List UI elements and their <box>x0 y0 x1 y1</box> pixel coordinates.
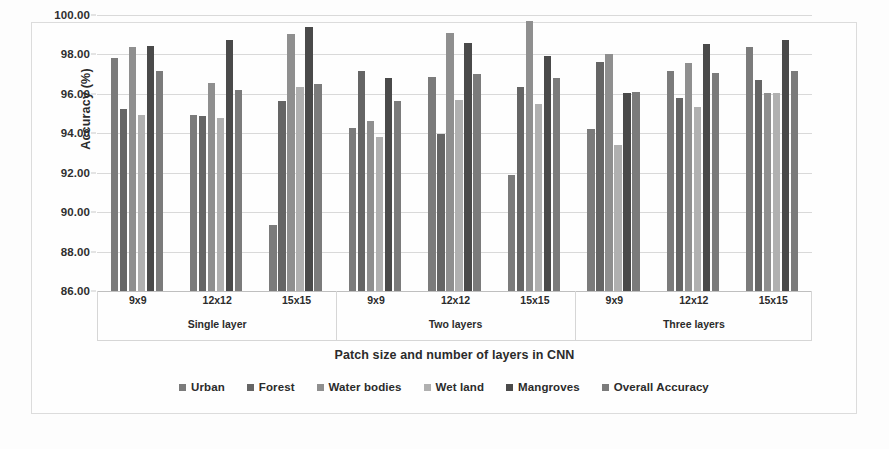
bar-overall-accuracy-three-layers-9x9 <box>632 92 639 291</box>
y-tick-mark <box>91 291 96 292</box>
legend-label: Wet land <box>436 381 485 393</box>
bar-urban-two-layers-15x15 <box>508 175 515 291</box>
y-tick-mark <box>91 133 96 134</box>
bar-mangroves-two-layers-12x12 <box>464 43 471 291</box>
bar-forest-single-layer-15x15 <box>278 101 285 291</box>
y-tick-mark <box>91 54 96 55</box>
y-tick-mark <box>91 15 96 16</box>
legend-label: Overall Accuracy <box>614 381 709 393</box>
y-tick-label: 100.00 <box>54 9 90 21</box>
legend-item[interactable]: Urban <box>179 381 225 393</box>
bar-mangroves-three-layers-15x15 <box>782 40 789 291</box>
bar-wet-land-three-layers-12x12 <box>694 107 701 291</box>
bar-urban-single-layer-9x9 <box>111 58 118 291</box>
bar-water-bodies-two-layers-9x9 <box>367 121 374 291</box>
bar-urban-two-layers-9x9 <box>349 128 356 291</box>
bar-forest-single-layer-9x9 <box>120 109 127 291</box>
legend-label: Forest <box>259 381 295 393</box>
bar-wet-land-two-layers-15x15 <box>535 104 542 291</box>
bar-water-bodies-single-layer-9x9 <box>129 47 136 291</box>
patch-size-label: 15x15 <box>734 294 813 306</box>
y-tick-label: 96.00 <box>61 88 90 100</box>
y-tick-label: 92.00 <box>61 167 90 179</box>
legend-swatch-icon <box>424 384 431 391</box>
bar-wet-land-three-layers-15x15 <box>773 93 780 291</box>
bar-overall-accuracy-single-layer-12x12 <box>235 90 242 291</box>
bar-mangroves-three-layers-9x9 <box>623 93 630 291</box>
bar-mangroves-three-layers-12x12 <box>703 44 710 291</box>
bar-overall-accuracy-single-layer-9x9 <box>156 71 163 291</box>
bar-forest-three-layers-9x9 <box>596 62 603 291</box>
bar-urban-three-layers-15x15 <box>746 47 753 291</box>
legend-swatch-icon <box>506 384 513 391</box>
legend-item[interactable]: Mangroves <box>506 381 580 393</box>
bar-water-bodies-three-layers-15x15 <box>764 93 771 291</box>
bar-wet-land-single-layer-15x15 <box>296 87 303 291</box>
layer-group-label: Single layer <box>98 318 336 330</box>
bar-forest-two-layers-15x15 <box>517 87 524 291</box>
legend-item[interactable]: Wet land <box>424 381 485 393</box>
bar-water-bodies-two-layers-15x15 <box>526 21 533 291</box>
y-tick-label: 90.00 <box>61 206 90 218</box>
y-tick-mark <box>91 93 96 94</box>
plot-area: 100.0098.0096.0094.0092.0090.0088.0086.0… <box>97 15 812 291</box>
legend-label: Urban <box>191 381 225 393</box>
bar-water-bodies-single-layer-12x12 <box>208 83 215 291</box>
layer-group-label: Two layers <box>336 318 574 330</box>
legend-label: Water bodies <box>329 381 402 393</box>
category-axis: 9x912x1215x159x912x1215x159x912x1215x15S… <box>97 291 812 341</box>
patch-size-label: 9x9 <box>575 294 654 306</box>
y-tick-label: 86.00 <box>61 285 90 297</box>
legend-swatch-icon <box>317 384 324 391</box>
bar-wet-land-single-layer-9x9 <box>138 115 145 291</box>
y-tick-label: 98.00 <box>61 48 90 60</box>
category-separator <box>575 291 576 340</box>
bar-forest-three-layers-15x15 <box>755 80 762 291</box>
bar-urban-three-layers-9x9 <box>587 129 594 291</box>
bars-layer <box>97 15 812 291</box>
bar-water-bodies-three-layers-12x12 <box>685 63 692 291</box>
y-tick-mark <box>91 212 96 213</box>
patch-size-label: 12x12 <box>654 294 733 306</box>
bar-overall-accuracy-two-layers-12x12 <box>473 74 480 291</box>
bar-overall-accuracy-single-layer-15x15 <box>314 84 321 291</box>
patch-size-label: 9x9 <box>98 294 177 306</box>
bar-forest-three-layers-12x12 <box>676 98 683 291</box>
bar-overall-accuracy-three-layers-12x12 <box>712 73 719 291</box>
bar-urban-two-layers-12x12 <box>428 77 435 291</box>
bar-overall-accuracy-three-layers-15x15 <box>791 71 798 291</box>
bar-water-bodies-two-layers-12x12 <box>446 33 453 291</box>
category-separator <box>336 291 337 340</box>
y-tick-mark <box>91 251 96 252</box>
bar-mangroves-single-layer-9x9 <box>147 46 154 291</box>
legend-label: Mangroves <box>518 381 580 393</box>
patch-size-label: 9x9 <box>336 294 415 306</box>
legend-item[interactable]: Water bodies <box>317 381 402 393</box>
layer-group-label: Three layers <box>575 318 813 330</box>
bar-water-bodies-single-layer-15x15 <box>287 34 294 291</box>
bar-urban-single-layer-12x12 <box>190 115 197 291</box>
bar-wet-land-two-layers-12x12 <box>455 100 462 291</box>
legend-swatch-icon <box>602 384 609 391</box>
bar-wet-land-three-layers-9x9 <box>614 145 621 291</box>
bar-mangroves-single-layer-12x12 <box>226 40 233 291</box>
bar-chart-figure: Accuracy (%) 100.0098.0096.0094.0092.009… <box>0 0 889 449</box>
bar-mangroves-two-layers-15x15 <box>544 56 551 291</box>
y-tick-label: 88.00 <box>61 246 90 258</box>
bar-forest-single-layer-12x12 <box>199 116 206 291</box>
bar-urban-three-layers-12x12 <box>667 71 674 291</box>
bar-water-bodies-three-layers-9x9 <box>605 54 612 291</box>
bar-forest-two-layers-12x12 <box>437 134 444 291</box>
x-axis-title: Patch size and number of layers in CNN <box>97 348 812 362</box>
bar-mangroves-two-layers-9x9 <box>385 78 392 291</box>
patch-size-label: 12x12 <box>416 294 495 306</box>
patch-size-label: 15x15 <box>495 294 574 306</box>
bar-wet-land-single-layer-12x12 <box>217 118 224 291</box>
legend-item[interactable]: Overall Accuracy <box>602 381 709 393</box>
bar-forest-two-layers-9x9 <box>358 71 365 291</box>
bar-wet-land-two-layers-9x9 <box>376 137 383 291</box>
legend-item[interactable]: Forest <box>247 381 295 393</box>
y-tick-mark <box>91 172 96 173</box>
legend-swatch-icon <box>247 384 254 391</box>
bar-overall-accuracy-two-layers-9x9 <box>394 101 401 291</box>
